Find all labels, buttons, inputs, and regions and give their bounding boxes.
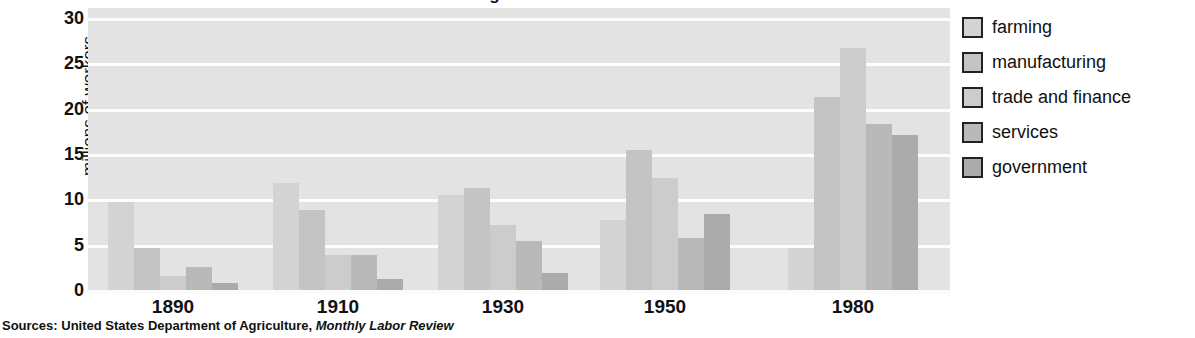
legend-swatch-government	[962, 157, 983, 178]
legend-item-manufacturing[interactable]: manufacturing	[962, 45, 1195, 80]
bar-group-1980	[788, 8, 918, 294]
bar-1890-services	[186, 267, 212, 290]
bar-1980-trade-and-finance	[840, 48, 866, 290]
bar-1910-farming	[273, 183, 299, 290]
bar-1950-farming	[600, 220, 626, 290]
bar-1910-trade-and-finance	[325, 255, 351, 290]
legend-item-services[interactable]: services	[962, 115, 1195, 150]
bar-1950-trade-and-finance	[652, 178, 678, 290]
bar-1930-farming	[438, 195, 464, 290]
legend-label-trade-and-finance: trade and finance	[992, 87, 1131, 108]
bar-1910-services	[351, 255, 377, 290]
bar-1980-government	[892, 135, 918, 290]
legend-item-farming[interactable]: farming	[962, 10, 1195, 45]
bar-group-1930	[438, 8, 568, 294]
bar-1930-services	[516, 241, 542, 290]
bar-1930-trade-and-finance	[490, 225, 516, 290]
source-note: Sources: United States Department of Agr…	[2, 318, 454, 333]
legend-swatch-manufacturing	[962, 52, 983, 73]
y-tick-label-25: 25	[38, 54, 84, 72]
bar-1930-government	[542, 273, 568, 290]
legend-label-services: services	[992, 122, 1058, 143]
chart-screenshot: Changes in the American Work Force milli…	[0, 0, 1195, 338]
legend-label-government: government	[992, 157, 1087, 178]
legend-label-farming: farming	[992, 17, 1052, 38]
x-axis-labels: 18901910193019501980	[88, 296, 950, 320]
x-tick-label-1930: 1930	[426, 296, 580, 318]
legend: farmingmanufacturingtrade and financeser…	[962, 10, 1195, 185]
plot-area	[88, 8, 950, 294]
y-tick-label-5: 5	[38, 236, 84, 254]
bar-1950-services	[678, 238, 704, 290]
y-tick-label-0: 0	[38, 281, 84, 299]
y-tick-label-15: 15	[38, 145, 84, 163]
bar-1980-farming	[788, 248, 814, 290]
x-tick-label-1950: 1950	[588, 296, 742, 318]
bar-1950-government	[704, 214, 730, 290]
legend-swatch-services	[962, 122, 983, 143]
legend-swatch-trade-and-finance	[962, 87, 983, 108]
x-tick-label-1910: 1910	[261, 296, 415, 318]
legend-item-government[interactable]: government	[962, 150, 1195, 185]
bar-1930-manufacturing	[464, 188, 490, 290]
y-tick-label-20: 20	[38, 100, 84, 118]
bar-groups	[88, 8, 950, 294]
legend-label-manufacturing: manufacturing	[992, 52, 1106, 73]
bar-1910-manufacturing	[299, 210, 325, 290]
bar-1910-government	[377, 279, 403, 290]
y-tick-label-30: 30	[38, 9, 84, 27]
chart-title-cropped: Changes in the American Work Force	[0, 0, 1195, 6]
bar-1890-manufacturing	[134, 248, 160, 290]
y-axis-ticks: 051015202530	[34, 8, 84, 294]
x-tick-label-1980: 1980	[776, 296, 930, 318]
bar-group-1890	[108, 8, 238, 294]
y-tick-label-10: 10	[38, 190, 84, 208]
x-tick-label-1890: 1890	[96, 296, 250, 318]
bar-1980-manufacturing	[814, 97, 840, 290]
source-prefix: Sources: United States Department of Agr…	[2, 318, 316, 333]
source-publication: Monthly Labor Review	[316, 318, 454, 333]
chart-title-text: Changes in the American Work Force	[447, 0, 748, 4]
bar-1980-services	[866, 124, 892, 290]
bar-group-1950	[600, 8, 730, 294]
bar-group-1910	[273, 8, 403, 294]
bar-1890-farming	[108, 202, 134, 290]
bar-1950-manufacturing	[626, 150, 652, 290]
legend-swatch-farming	[962, 17, 983, 38]
legend-item-trade-and-finance[interactable]: trade and finance	[962, 80, 1195, 115]
bar-1890-trade-and-finance	[160, 276, 186, 291]
bar-1890-government	[212, 283, 238, 290]
